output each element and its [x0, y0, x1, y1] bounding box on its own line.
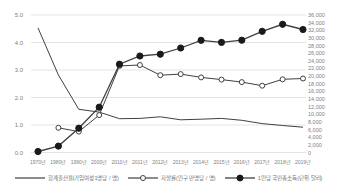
y-right-tick-label: 14,000	[308, 96, 325, 102]
y-right-tick-label: 12,000	[308, 104, 325, 110]
chart-legend: 합계출산율(가임여성1명당 / 명) 자살률(인구 만명당 / 명) 1인당 국…	[0, 170, 337, 186]
line-marker-icon	[15, 174, 45, 182]
filled-circle-data-marker	[35, 148, 41, 154]
y-right-tick-label: 34,000	[308, 20, 325, 26]
y-left-tick-label: 3.0	[15, 67, 24, 73]
x-tick-label: 2016년	[234, 159, 250, 165]
y-right-tick-label: 4,000	[308, 134, 322, 140]
filled-circle-data-marker	[55, 143, 61, 149]
filled-circle-data-marker	[280, 21, 286, 27]
x-tick-label: 2012년	[152, 159, 168, 165]
y-right-tick-label: 18,000	[308, 81, 325, 87]
open-circle-data-marker	[199, 75, 204, 80]
y-right-tick-label: 20,000	[308, 73, 325, 79]
line-chart: 0.01.02.03.04.05.002,0004,0006,0008,0001…	[0, 0, 337, 189]
filled-circle-marker-icon	[225, 174, 255, 182]
open-circle-data-marker	[260, 83, 265, 88]
legend-item-total-fertility-rate: 합계출산율(가임여성1명당 / 명)	[15, 174, 119, 182]
x-tick-label: 2018년	[275, 159, 291, 165]
chart-canvas: 0.01.02.03.04.05.002,0004,0006,0008,0001…	[0, 0, 337, 170]
filled-circle-data-marker	[76, 125, 82, 131]
y-right-tick-label: 26,000	[308, 50, 325, 56]
x-tick-label: 1970년	[30, 159, 46, 165]
filled-circle-data-marker	[116, 61, 122, 67]
y-left-tick-label: 0.0	[15, 150, 24, 156]
open-circle-marker-icon	[128, 174, 158, 182]
y-left-tick-label: 4.0	[15, 40, 24, 46]
open-circle-data-marker	[178, 72, 183, 77]
y-left-tick-label: 1.0	[15, 122, 24, 128]
y-right-tick-label: 22,000	[308, 65, 325, 71]
legend-label-fertility: 합계출산율(가임여성1명당 / 명)	[48, 174, 119, 182]
filled-circle-data-marker	[96, 104, 102, 110]
x-tick-label: 2017년	[254, 159, 270, 165]
x-tick-label: 2010년	[111, 159, 127, 165]
x-tick-label: 2015년	[213, 159, 229, 165]
y-right-tick-label: 16,000	[308, 88, 325, 94]
open-circle-data-marker	[56, 125, 61, 130]
y-right-tick-label: 10,000	[308, 111, 325, 117]
y-right-tick-label: 24,000	[308, 58, 325, 64]
filled-circle-data-marker	[239, 37, 245, 43]
x-tick-label: 1980년	[50, 159, 66, 165]
open-circle-data-marker	[137, 63, 142, 68]
y-right-tick-label: 36,000	[308, 12, 325, 18]
y-right-tick-label: 2,000	[308, 142, 322, 148]
x-tick-label: 1990년	[71, 159, 87, 165]
y-left-tick-label: 2.0	[15, 95, 24, 101]
open-circle-data-marker	[280, 77, 285, 82]
open-circle-data-marker	[239, 80, 244, 85]
filled-circle-data-marker	[198, 37, 204, 43]
y-right-tick-label: 8,000	[308, 119, 322, 125]
legend-label-gni: 1인당 국민총소득(단위 달러)	[258, 174, 323, 182]
open-circle-data-marker	[97, 113, 102, 118]
legend-item-gni-per-capita: 1인당 국민총소득(단위 달러)	[225, 174, 323, 182]
x-tick-label: 2000년	[91, 159, 107, 165]
filled-circle-data-marker	[157, 51, 163, 57]
filled-circle-data-marker	[137, 53, 143, 59]
y-right-tick-label: 32,000	[308, 27, 325, 33]
filled-circle-data-marker	[178, 45, 184, 51]
y-right-tick-label: 0	[308, 150, 311, 156]
y-right-tick-label: 30,000	[308, 35, 325, 41]
open-circle-data-marker	[219, 77, 224, 82]
open-circle-data-marker	[158, 73, 163, 78]
y-right-tick-label: 28,000	[308, 43, 325, 49]
x-tick-label: 2019년	[295, 159, 311, 165]
legend-label-suicide: 자살률(인구 만명당 / 명)	[161, 174, 216, 182]
x-tick-label: 2013년	[173, 159, 189, 165]
filled-circle-data-marker	[218, 39, 224, 45]
x-tick-label: 2014년	[193, 159, 209, 165]
y-right-tick-label: 6,000	[308, 127, 322, 133]
y-left-tick-label: 5.0	[15, 12, 24, 18]
x-tick-label: 2011년	[132, 159, 148, 165]
open-circle-data-marker	[301, 76, 306, 81]
legend-item-suicide-rate: 자살률(인구 만명당 / 명)	[128, 174, 216, 182]
filled-circle-data-marker	[259, 28, 265, 34]
filled-circle-data-marker	[300, 26, 306, 32]
